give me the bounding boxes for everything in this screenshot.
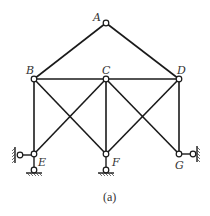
label-f: F	[111, 156, 120, 169]
member-a-b	[34, 23, 106, 79]
truss-members	[34, 23, 179, 154]
joint-c	[103, 76, 109, 82]
member-a-d	[106, 23, 179, 79]
pin-icon	[103, 167, 109, 173]
joint-f	[103, 151, 109, 157]
label-e: E	[37, 156, 46, 169]
support-e-horizontal	[12, 147, 34, 163]
label-b: B	[25, 64, 34, 77]
label-g: G	[175, 159, 184, 172]
truss-diagram: A B C D E F G (a)	[0, 0, 210, 216]
label-d: D	[176, 64, 186, 77]
label-a: A	[92, 11, 101, 24]
joint-g	[176, 151, 182, 157]
joint-a	[103, 20, 109, 26]
pin-icon	[190, 151, 196, 157]
pin-icon	[31, 167, 37, 173]
joint-d	[176, 76, 182, 82]
pin-icon	[17, 152, 23, 158]
joint-e	[31, 151, 37, 157]
label-c: C	[102, 64, 111, 77]
joint-b	[31, 76, 37, 82]
figure-caption: (a)	[103, 190, 116, 204]
